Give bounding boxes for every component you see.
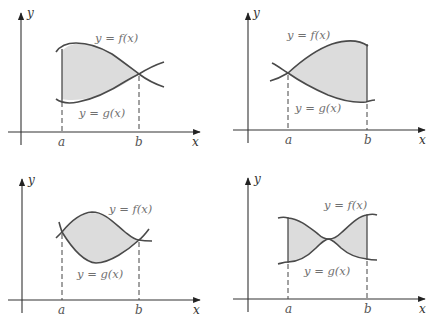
y-axis-label: y xyxy=(26,6,34,20)
panel-bottom-right: y x a b y = f(x) y = g(x) xyxy=(233,172,426,316)
g-label: y = g(x) xyxy=(294,101,341,115)
f-label: y = f(x) xyxy=(108,202,152,216)
b-label: b xyxy=(135,135,143,149)
b-label: b xyxy=(135,303,143,317)
g-label: y = g(x) xyxy=(78,106,125,120)
area-between-curves-figure: y x a b y = f(x) y = g(x) y x a b y = f(… xyxy=(0,0,429,327)
b-label: b xyxy=(364,133,372,147)
x-axis-label: x xyxy=(419,302,426,316)
panel-bottom-left: y x a b y = f(x) y = g(x) xyxy=(8,173,200,317)
x-axis-label: x xyxy=(419,133,426,147)
shaded-region xyxy=(288,41,367,102)
g-label: y = g(x) xyxy=(76,267,123,281)
shaded-region xyxy=(62,43,139,100)
y-axis-label: y xyxy=(252,6,260,20)
y-axis-label: y xyxy=(27,173,35,187)
a-label: a xyxy=(58,135,65,149)
panel-top-left: y x a b y = f(x) y = g(x) xyxy=(8,6,200,149)
b-label: b xyxy=(364,302,372,316)
a-label: a xyxy=(285,133,292,147)
f-label: y = f(x) xyxy=(94,31,138,45)
panel-top-right: y x a b y = f(x) y = g(x) xyxy=(233,6,426,147)
a-label: a xyxy=(58,303,65,317)
x-axis-label: x xyxy=(192,135,199,149)
x-axis-label: x xyxy=(193,303,200,317)
g-label: y = g(x) xyxy=(303,264,350,278)
f-label: y = f(x) xyxy=(286,28,330,42)
f-label: y = f(x) xyxy=(323,198,367,212)
y-axis-label: y xyxy=(253,172,261,186)
a-label: a xyxy=(285,302,292,316)
